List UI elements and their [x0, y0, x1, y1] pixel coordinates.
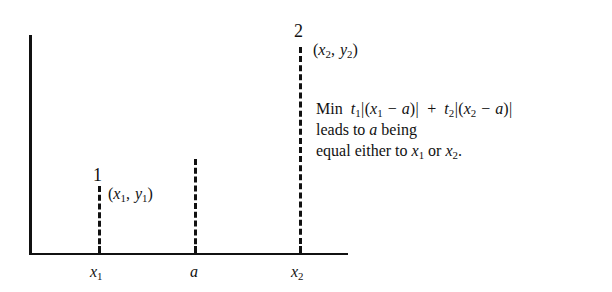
point-1-marker-label: 1 [93, 166, 102, 184]
annotation-line3-conjunction: or [428, 142, 441, 159]
point-2-marker-label: 2 [294, 22, 303, 40]
dashed-line-a [194, 159, 197, 253]
dashed-line-x2 [299, 47, 302, 253]
x-axis-label-x2: x2 [291, 264, 304, 280]
annotation-line2-prefix: leads to [316, 121, 365, 138]
annotation-line-formula: Mint1|(x1−a)|+t2|(x2−a)| [316, 98, 513, 119]
annotation-line3-prefix: equal either to [316, 142, 408, 159]
dashed-line-x1 [98, 186, 101, 253]
annotation-line-equal-either: equal either to x1 or x2. [316, 140, 513, 161]
point-2-coordinate-label: (x2,y2) [313, 42, 358, 58]
annotation-line-leads-to: leads to a being [316, 119, 513, 140]
annotation-line2-var: a [369, 121, 377, 138]
vertical-axis [29, 35, 32, 255]
annotation-line2-suffix: being [381, 121, 417, 138]
x-axis-label-x1: x1 [90, 264, 103, 280]
point-1-coordinate-label: (x1,y1) [108, 186, 153, 202]
annotation-text-block: Mint1|(x1−a)|+t2|(x2−a)| leads to a bein… [316, 98, 513, 161]
x-axis-label-a: a [190, 264, 198, 280]
figure-canvas: 1 (x1,y1) 2 (x2,y2) Mint1|(x1−a)|+t2|(x2… [0, 0, 612, 292]
